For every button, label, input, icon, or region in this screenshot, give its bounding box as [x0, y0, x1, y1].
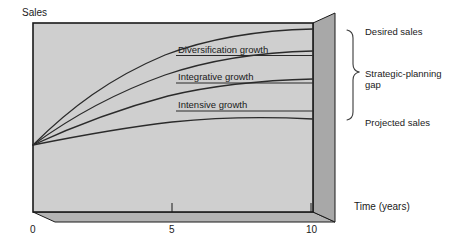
x-axis-title: Time (years)	[354, 202, 410, 212]
y-axis-title: Sales	[22, 8, 47, 18]
bracket-label-gap-line-2: gap	[365, 79, 442, 90]
slab-bottom-face	[33, 212, 335, 222]
x-tick-label-10: 10	[306, 224, 317, 235]
curve-label-integrative-growth: Integrative growth	[178, 71, 254, 82]
bracket-label-gap-line-1: Strategic-planning	[365, 68, 442, 79]
bracket-label-desired-sales: Desired sales	[365, 26, 423, 37]
bracket-label-projected-sales: Projected sales	[365, 117, 430, 128]
x-tick-label-0: 0	[30, 224, 36, 235]
slab-right-face	[313, 13, 335, 222]
bracket-label-strategic-planning-gap: Strategic-planning gap	[365, 68, 442, 90]
bracket-upper-tip	[347, 30, 359, 72]
curve-label-diversification-growth: Diversification growth	[178, 44, 268, 55]
chart-figure: Sales Time (years) 0 5 10 Diversificatio…	[0, 0, 459, 246]
curve-label-intensive-growth: Intensive growth	[178, 99, 247, 110]
bracket-lower-tip	[347, 72, 359, 120]
x-tick-label-5: 5	[169, 224, 175, 235]
